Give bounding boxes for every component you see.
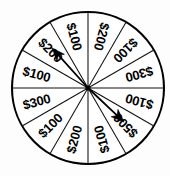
wheel-center-hub xyxy=(85,85,90,90)
wheel-hub-group xyxy=(85,85,90,90)
spinner-figure: $200$100$300$100$500$100$200$100$300$100… xyxy=(0,0,170,176)
spinner-wheel: $200$100$300$100$500$100$200$100$300$100… xyxy=(0,0,170,176)
